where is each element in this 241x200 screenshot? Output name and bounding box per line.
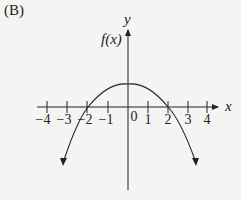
y-axis-label: y: [122, 11, 131, 27]
right-arrowhead-icon: [192, 158, 199, 166]
tick-label: 4: [204, 112, 211, 127]
tick-label: 2: [165, 112, 172, 127]
x-tick-labels: −4 −3 −2 −1 0 1 2 3 4: [36, 109, 211, 127]
left-arrowhead-icon: [60, 158, 67, 166]
parabola-chart: −4 −3 −2 −1 0 1 2 3 4 x y f(x): [0, 0, 241, 200]
x-axis-label: x: [224, 98, 232, 114]
tick-label: 0: [131, 109, 138, 124]
tick-label: −4: [36, 112, 51, 127]
tick-label: 1: [145, 112, 152, 127]
function-label: f(x): [101, 31, 122, 48]
tick-label: 3: [185, 112, 192, 127]
tick-label: −1: [99, 112, 114, 127]
tick-label: −3: [57, 112, 72, 127]
